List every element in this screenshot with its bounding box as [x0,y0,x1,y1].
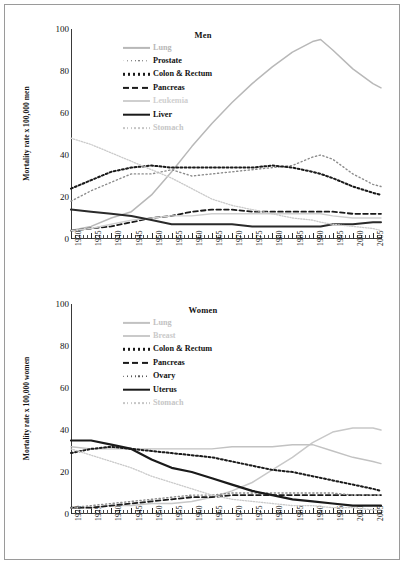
legend-item-stomach[interactable]: Stomach [123,396,293,409]
legend-item-pancreas[interactable]: Pancreas [123,356,293,369]
legend-swatch-icon [123,331,150,342]
y-tick-60: 60 [43,108,69,118]
series-line-stomach [71,449,381,510]
legend-item-stomach[interactable]: Stomach [123,121,293,134]
legend-label: Prostate [153,57,182,65]
y-tick-20: 20 [43,467,69,477]
legend-item-prostate[interactable]: Prostate [123,54,293,67]
y-tick-20: 20 [43,192,69,202]
legend-swatch-icon [123,42,150,53]
legend-label: Lung [153,44,172,52]
legend-label: Lung [153,319,172,327]
legend-swatch-icon [123,317,150,328]
legend-item-colon-rectum[interactable]: Colon & Rectum [123,68,293,81]
legend-swatch-icon [123,56,150,67]
legend-item-colon-rectum[interactable]: Colon & Rectum [123,343,293,356]
y-axis-label-women: Mortality rate x 100,000 women [22,334,31,484]
legend-item-liver[interactable]: Liver [123,108,293,121]
figure-frame: Men Mortality rate x 100,000 men 0204060… [4,4,400,560]
legend-swatch-icon [123,69,150,80]
legend-item-leukemia[interactable]: Leukemia [123,95,293,108]
plot-area-men: 020406080100 193019351940194519501955196… [71,29,381,239]
legend-swatch-icon [123,357,150,368]
legend-label: Leukemia [153,97,188,105]
chart-panel-women: Women Mortality rate x 100,000 women 020… [5,286,401,558]
legend-swatch-icon [123,371,150,382]
y-tick-80: 80 [43,341,69,351]
legend-label: Uterus [153,386,177,394]
legend-swatch-icon [123,384,150,395]
legend-swatch-icon [123,82,150,93]
legend-item-lung[interactable]: Lung [123,316,293,329]
series-line-colon-rectum [71,447,381,491]
legend-women: LungBreastColon & RectumPancreasOvaryUte… [123,316,293,410]
y-tick-100: 100 [43,24,69,34]
legend-men: LungProstateColon & RectumPancreasLeukem… [123,41,293,135]
y-tick-40: 40 [43,150,69,160]
legend-item-ovary[interactable]: Ovary [123,370,293,383]
legend-label: Ovary [153,372,175,380]
legend-label: Liver [153,111,172,119]
legend-item-breast[interactable]: Breast [123,329,293,342]
legend-label: Pancreas [153,84,185,92]
legend-item-uterus[interactable]: Uterus [123,383,293,396]
plot-area-women: 020406080100 193019351940194519501955196… [71,304,381,514]
y-tick-0: 0 [43,509,69,519]
y-tick-80: 80 [43,66,69,76]
y-tick-40: 40 [43,425,69,435]
legend-swatch-icon [123,344,150,355]
legend-item-lung[interactable]: Lung [123,41,293,54]
series-line-pancreas [71,210,381,231]
legend-label: Stomach [153,124,183,132]
y-tick-0: 0 [43,234,69,244]
legend-label: Breast [153,332,176,340]
legend-swatch-icon [123,96,150,107]
legend-label: Colon & Rectum [153,345,212,353]
y-tick-60: 60 [43,383,69,393]
legend-swatch-icon [123,398,150,409]
y-tick-100: 100 [43,299,69,309]
legend-swatch-icon [123,123,150,134]
legend-swatch-icon [123,109,150,120]
legend-item-pancreas[interactable]: Pancreas [123,81,293,94]
legend-label: Pancreas [153,359,185,367]
series-line-pancreas [71,495,381,508]
y-axis-label-men: Mortality rate x 100,000 men [22,59,31,209]
chart-panel-men: Men Mortality rate x 100,000 men 0204060… [5,11,401,283]
legend-label: Stomach [153,399,183,407]
legend-label: Colon & Rectum [153,70,212,78]
